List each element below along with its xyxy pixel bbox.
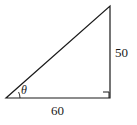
triangle-drawing: [0, 0, 137, 125]
opposite-side-label: 50: [115, 46, 128, 59]
right-angle-marker-icon: [103, 92, 109, 98]
angle-arc-icon: [19, 92, 20, 98]
right-triangle-figure: 50 60 θ: [0, 0, 137, 125]
angle-theta-label: θ: [21, 84, 27, 96]
adjacent-side-label: 60: [51, 104, 64, 117]
